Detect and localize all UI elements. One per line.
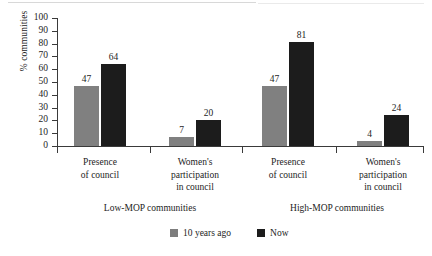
bar-value-label: 20 xyxy=(194,108,224,118)
legend-swatch-black xyxy=(257,229,265,237)
y-axis-tick-label: 90 xyxy=(22,26,48,36)
category-label-line: Women's xyxy=(338,156,428,169)
bar-chart-figure: % communities 0102030405060708090100 477… xyxy=(0,0,432,256)
plot-area xyxy=(58,18,424,146)
y-axis-tick xyxy=(52,44,57,45)
category-label-line: in council xyxy=(338,181,428,194)
y-axis-tick-label: 20 xyxy=(22,115,48,125)
chart-legend: 10 years agoNow xyxy=(170,228,289,238)
bar-value-label: 47 xyxy=(72,74,102,84)
y-axis-tick-label: 50 xyxy=(22,77,48,87)
legend-item-label: Now xyxy=(270,228,288,238)
y-axis-tick xyxy=(52,120,57,121)
group-label: Low-MOP communities xyxy=(60,203,240,213)
bar-value-label: 24 xyxy=(382,103,412,113)
group-label: High-MOP communities xyxy=(247,203,427,213)
x-axis-tick xyxy=(336,147,337,153)
y-axis-tick xyxy=(52,133,57,134)
legend-swatch-gray xyxy=(170,229,178,237)
category-label-line: Presence xyxy=(55,156,145,169)
y-axis-tick-label: 100 xyxy=(22,13,48,23)
bar-then xyxy=(357,141,382,146)
y-axis-tick xyxy=(52,95,57,96)
bar-then xyxy=(262,86,287,146)
x-axis-category-label: Presenceof council xyxy=(243,156,333,181)
bar-value-label: 81 xyxy=(287,30,317,40)
y-axis-tick xyxy=(52,82,57,83)
y-axis-tick xyxy=(52,108,57,109)
bar-value-label: 4 xyxy=(355,129,385,139)
y-axis-tick-label: 10 xyxy=(22,128,48,138)
scan-artifact-line-secondary xyxy=(258,3,424,4)
bar-now xyxy=(289,42,314,146)
category-label-line: of council xyxy=(243,169,333,182)
legend-item-label: 10 years ago xyxy=(183,228,231,238)
bar-now xyxy=(196,120,221,146)
y-axis-tick-label: 80 xyxy=(22,39,48,49)
y-axis-tick-label: 0 xyxy=(22,141,48,151)
bar-value-label: 7 xyxy=(167,125,197,135)
y-axis-tick-label: 70 xyxy=(22,51,48,61)
category-label-line: participation xyxy=(338,169,428,182)
y-axis-tick-label: 60 xyxy=(22,64,48,74)
x-axis-tick xyxy=(242,147,243,153)
bar-value-label: 64 xyxy=(99,52,129,62)
scan-artifact-line xyxy=(8,2,256,3)
category-label-line: Presence xyxy=(243,156,333,169)
bar-now xyxy=(101,64,126,146)
x-axis-tick xyxy=(57,147,58,153)
y-axis-tick-label: 40 xyxy=(22,90,48,100)
legend-item: Now xyxy=(257,228,288,238)
x-axis-category-label: Women'sparticipationin council xyxy=(150,156,240,194)
x-axis-category-label: Presenceof council xyxy=(55,156,145,181)
bar-value-label: 47 xyxy=(260,74,290,84)
bar-then xyxy=(74,86,99,146)
y-axis-tick-label: 30 xyxy=(22,103,48,113)
y-axis-tick xyxy=(52,31,57,32)
y-axis-tick xyxy=(52,18,57,19)
y-axis-tick xyxy=(52,56,57,57)
category-label-line: participation xyxy=(150,169,240,182)
y-axis-tick xyxy=(52,69,57,70)
x-axis-tick xyxy=(423,147,424,153)
x-axis-category-label: Women'sparticipationin council xyxy=(338,156,428,194)
category-label-line: Women's xyxy=(150,156,240,169)
x-axis-line xyxy=(57,146,424,147)
bar-then xyxy=(169,137,194,146)
x-axis-tick xyxy=(150,147,151,153)
bar-now xyxy=(384,115,409,146)
legend-item: 10 years ago xyxy=(170,228,231,238)
category-label-line: in council xyxy=(150,181,240,194)
category-label-line: of council xyxy=(55,169,145,182)
